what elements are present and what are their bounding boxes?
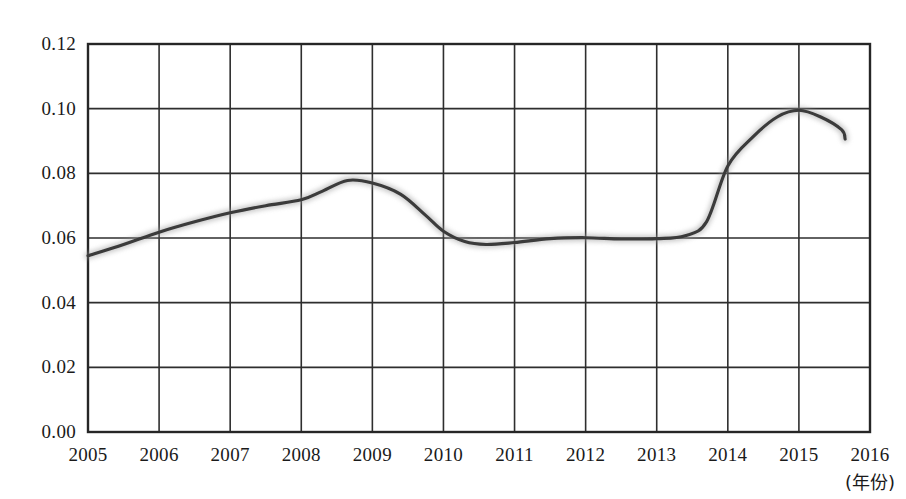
series-line-stroke	[88, 110, 845, 256]
x-tick-label: 2005	[68, 444, 107, 466]
y-tick-label: 0.12	[42, 33, 76, 55]
y-tick-label: 0.08	[42, 162, 76, 184]
chart-figure: 0.120.100.080.060.040.020.00 20052006200…	[0, 0, 906, 499]
y-tick-label: 0.04	[42, 292, 76, 314]
series-line	[88, 110, 845, 256]
y-tick-label: 0.10	[42, 98, 76, 120]
series-glow	[88, 110, 845, 256]
x-tick-label: 2011	[495, 444, 534, 466]
x-tick-label: 2013	[637, 444, 676, 466]
x-tick-label: 2015	[779, 444, 818, 466]
y-tick-label: 0.06	[42, 227, 76, 249]
x-tick-label: 2006	[139, 444, 178, 466]
x-tick-label: 2014	[708, 444, 747, 466]
series-line-glow	[88, 110, 845, 256]
x-axis-unit-note: (年份)	[845, 468, 895, 494]
x-tick-label: 2016	[850, 444, 889, 466]
line-chart-plot	[0, 0, 906, 499]
x-tick-label: 2009	[353, 444, 392, 466]
gridlines	[88, 44, 870, 432]
x-tick-label: 2012	[566, 444, 605, 466]
y-tick-label: 0.00	[42, 421, 76, 443]
x-tick-label: 2010	[424, 444, 463, 466]
x-tick-label: 2008	[282, 444, 321, 466]
y-tick-label: 0.02	[42, 356, 76, 378]
x-tick-label: 2007	[211, 444, 250, 466]
